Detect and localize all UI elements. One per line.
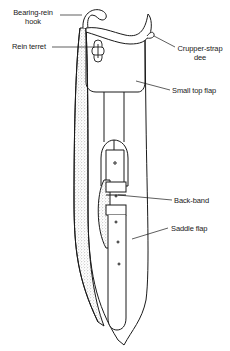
label-back-band: Back-band <box>174 196 209 205</box>
label-crupper-strap-dee-line2: dee <box>172 53 228 62</box>
label-small-top-flap-text: Small top flap <box>172 86 216 95</box>
label-crupper-strap-dee-line1: Crupper-strap <box>172 44 228 53</box>
label-rein-terret-text: Rein terret <box>12 42 46 51</box>
label-rein-terret: Rein terret <box>12 42 46 51</box>
label-small-top-flap: Small top flap <box>172 86 216 95</box>
label-saddle-flap-text: Saddle flap <box>171 224 207 233</box>
label-back-band-text: Back-band <box>174 196 209 205</box>
label-saddle-flap: Saddle flap <box>171 224 207 233</box>
saddle-tree-top <box>86 14 151 44</box>
bearing-rein-hook-shape <box>83 10 106 28</box>
label-bearing-rein-hook-line2: hook <box>8 17 58 26</box>
rein-terret-shape <box>92 40 104 62</box>
back-band-strap <box>98 92 128 330</box>
label-crupper-strap-dee: Crupper-strap dee <box>172 44 228 62</box>
label-bearing-rein-hook: Bearing-rein hook <box>8 8 58 26</box>
label-bearing-rein-hook-line1: Bearing-rein <box>8 8 58 17</box>
